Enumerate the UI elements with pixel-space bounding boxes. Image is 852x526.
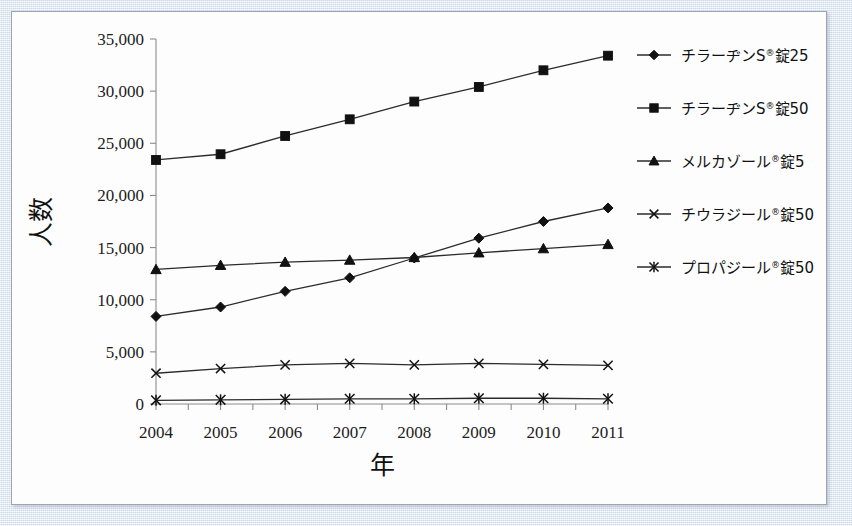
y-tick-labels: 05,00010,00015,00020,00025,00030,00035,0… <box>97 30 144 414</box>
marker-diamond <box>649 50 659 60</box>
marker-diamond <box>474 233 484 243</box>
series-line <box>156 208 608 316</box>
marker-square <box>650 104 658 112</box>
data-series <box>152 51 613 164</box>
marker-square <box>410 97 419 106</box>
x-tick-label: 2006 <box>268 423 302 442</box>
legend-label: プロパジール®錠50 <box>681 259 814 277</box>
x-tick-label: 2009 <box>462 423 496 442</box>
marker-square <box>604 51 613 60</box>
figure-panel: 05,00010,00015,00020,00025,00030,00035,0… <box>11 11 827 505</box>
marker-square <box>539 66 548 75</box>
legend-item[interactable]: プロパジール®錠50 <box>637 259 814 277</box>
legend-item[interactable]: チウラジール®錠50 <box>637 206 814 224</box>
marker-diamond <box>280 286 290 296</box>
x-tick-marks <box>156 404 608 410</box>
marker-square <box>281 132 290 141</box>
series-line <box>156 398 608 400</box>
x-tick-label: 2008 <box>397 423 431 442</box>
x-tick-label: 2004 <box>139 423 174 442</box>
legend-label: チラーヂンS®錠50 <box>681 100 809 118</box>
legend-item[interactable]: チラーヂンS®錠25 <box>637 47 809 65</box>
x-tick-labels: 20042005200620072008200920102011 <box>139 423 625 442</box>
marker-diamond <box>216 302 226 312</box>
x-axis-title: 年 <box>370 451 395 480</box>
y-tick-label: 10,000 <box>97 291 144 310</box>
y-tick-label: 30,000 <box>97 82 144 101</box>
y-tick-label: 5,000 <box>106 343 144 362</box>
y-tick-label: 35,000 <box>97 30 144 49</box>
y-tick-label: 0 <box>136 395 145 414</box>
marker-square <box>152 156 161 165</box>
data-series <box>151 359 612 378</box>
chart-legend: チラーヂンS®錠25チラーヂンS®錠50メルカゾール®錠5チウラジール®錠50プ… <box>637 47 814 277</box>
legend-label: メルカゾール®錠5 <box>681 153 805 171</box>
x-tick-label: 2010 <box>526 423 560 442</box>
legend-label: チウラジール®錠50 <box>681 206 814 224</box>
x-tick-label: 2005 <box>204 423 238 442</box>
marker-square <box>216 150 225 159</box>
y-tick-marks <box>150 39 156 404</box>
y-tick-label: 25,000 <box>97 134 144 153</box>
marker-square <box>345 115 354 124</box>
marker-diamond <box>345 273 355 283</box>
marker-triangle <box>603 239 613 248</box>
y-tick-label: 15,000 <box>97 239 144 258</box>
legend-item[interactable]: メルカゾール®錠5 <box>637 153 805 171</box>
x-tick-label: 2007 <box>333 423 368 442</box>
legend-item[interactable]: チラーヂンS®錠50 <box>637 100 809 118</box>
marker-square <box>474 83 483 92</box>
legend-label: チラーヂンS®錠25 <box>681 47 809 65</box>
y-axis-title: 人数 <box>27 197 56 247</box>
series-group <box>151 51 613 406</box>
x-tick-label: 2011 <box>591 423 624 442</box>
marker-diamond <box>538 217 548 227</box>
marker-diamond <box>603 203 613 213</box>
line-chart: 05,00010,00015,00020,00025,00030,00035,0… <box>12 12 826 504</box>
y-tick-label: 20,000 <box>97 186 144 205</box>
marker-diamond <box>151 311 161 321</box>
